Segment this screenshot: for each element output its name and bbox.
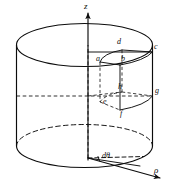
angle-label-dtheta: dθ (102, 152, 110, 160)
cylinder-bottom-back-arc (17, 125, 153, 147)
vertex-label-d: d (117, 38, 121, 46)
vertex-label-c: c (154, 43, 158, 51)
axis-label-z: z (84, 2, 88, 11)
vertex-label-h: h (118, 83, 122, 91)
diagram-canvas (0, 0, 172, 189)
element-bottom-outer-arc (120, 96, 153, 110)
vertex-label-g: g (155, 87, 159, 95)
axis-label-rho: ρ (154, 166, 158, 175)
cylinder-top-ellipse (17, 24, 153, 67)
vertex-label-b: b (121, 55, 125, 63)
vertex-label-f: f (120, 110, 122, 118)
element-mid-radius (88, 92, 122, 96)
base-radius-inner (88, 157, 144, 159)
vertex-label-a: a (96, 55, 100, 63)
cylindrical-coordinates-figure: z ρ dθ a b c d e f g h (0, 0, 172, 189)
vertex-label-e: e (103, 98, 107, 106)
element-bottom-edge-hg (122, 92, 153, 96)
rho-axis-line (88, 158, 160, 178)
